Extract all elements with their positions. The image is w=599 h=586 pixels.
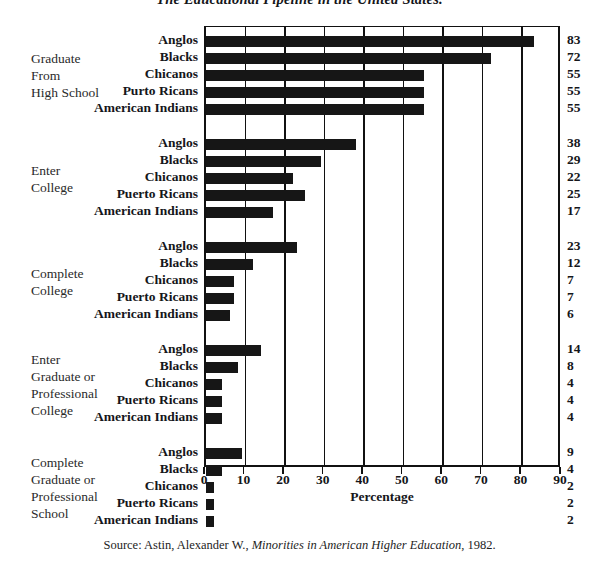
bar [206,516,214,527]
value-label: 12 [567,257,581,268]
gridline-70 [482,27,484,465]
bar [206,345,261,356]
source-prefix: Source: Astin, Alexander W., [103,538,251,552]
x-tick-label-0: 0 [201,472,208,488]
series-label: Puerto Ricans [0,188,198,199]
series-label: Anglos [0,34,198,45]
bar [206,53,491,64]
bar [206,207,273,218]
value-label: 4 [567,377,574,388]
group-caption-line: Graduate or [31,368,98,385]
group-caption: EnterCollege [31,162,73,196]
value-label: 6 [567,308,574,319]
series-label: Puerto Ricans [0,497,198,508]
x-tick-label-50: 50 [395,472,409,488]
bar [206,448,242,459]
series-label: Blacks [0,257,198,268]
series-label: American Indians [0,205,198,216]
series-label: American Indians [0,411,198,422]
value-label: 17 [567,205,581,216]
group-caption-line: High School [31,84,99,101]
group-caption: GraduateFromHigh School [31,50,99,101]
value-label: 22 [567,171,581,182]
value-label: 23 [567,240,581,251]
series-label: Chicanos [0,274,198,285]
group-caption-line: Enter [31,162,73,179]
group-caption-line: Graduate [31,50,99,67]
group-caption: CompleteCollege [31,265,84,299]
group-caption-line: Graduate or [31,471,98,488]
series-label: Purto Ricans [0,85,198,96]
bar [206,396,222,407]
x-tick-label-60: 60 [435,472,449,488]
value-label: 2 [567,497,574,508]
source-suffix: , 1982. [461,538,495,552]
series-label: Anglos [0,137,198,148]
gridline-80 [521,27,523,465]
series-label: Anglos [0,446,198,457]
x-tick-label-90: 90 [553,472,567,488]
group-caption: CompleteGraduate orProfessionalSchool [31,454,98,522]
series-label: Blacks [0,360,198,371]
bar [206,173,293,184]
x-tick-label-70: 70 [474,472,488,488]
source-note: Source: Astin, Alexander W., Minorities … [0,538,599,553]
value-label: 29 [567,154,581,165]
series-label: Anglos [0,343,198,354]
x-tick-label-30: 30 [316,472,330,488]
value-label: 4 [567,394,574,405]
series-label: Puerto Ricans [0,394,198,405]
x-tick-label-80: 80 [514,472,528,488]
x-axis-label: Percentage [204,489,560,505]
bar [206,259,253,270]
source-work-title: Minorities in American Higher Education [252,538,461,552]
group-caption-line: Professional [31,385,98,402]
group-caption-line: College [31,179,73,196]
value-label: 14 [567,343,581,354]
group-caption-line: Professional [31,488,98,505]
series-label: Chicanos [0,68,198,79]
series-label: Puerto Ricans [0,291,198,302]
group-caption-line: Complete [31,454,98,471]
x-tick-label-40: 40 [355,472,369,488]
value-label: 55 [567,68,581,79]
bar [206,104,424,115]
series-label: Chicanos [0,480,198,491]
x-tick-label-10: 10 [237,472,251,488]
bar [206,362,238,373]
value-label: 7 [567,291,574,302]
group-caption-line: School [31,505,98,522]
bar [206,139,356,150]
value-label: 9 [567,446,574,457]
bar [206,36,534,47]
group-caption: EnterGraduate orProfessionalCollege [31,351,98,419]
gridline-60 [442,27,444,465]
chart-title: The Educational Pipeline in the United S… [0,0,599,8]
value-label: 55 [567,102,581,113]
bar [206,70,424,81]
plot-area [204,26,560,467]
series-label: Chicanos [0,171,198,182]
value-label: 2 [567,514,574,525]
series-label: American Indians [0,514,198,525]
value-label: 25 [567,188,581,199]
group-caption-line: Complete [31,265,84,282]
x-tick-label-20: 20 [276,472,290,488]
bar [206,379,222,390]
bar [206,276,234,287]
value-label: 38 [567,137,581,148]
bar [206,293,234,304]
group-caption-line: From [31,67,99,84]
bar [206,190,305,201]
bar [206,413,222,424]
value-label: 8 [567,360,574,371]
bar [206,310,230,321]
group-caption-line: College [31,282,84,299]
value-label: 55 [567,85,581,96]
value-label: 72 [567,51,581,62]
educational-pipeline-figure: The Educational Pipeline in the United S… [0,0,599,586]
value-label: 83 [567,34,581,45]
bar [206,156,321,167]
bar [206,242,297,253]
bar [206,87,424,98]
